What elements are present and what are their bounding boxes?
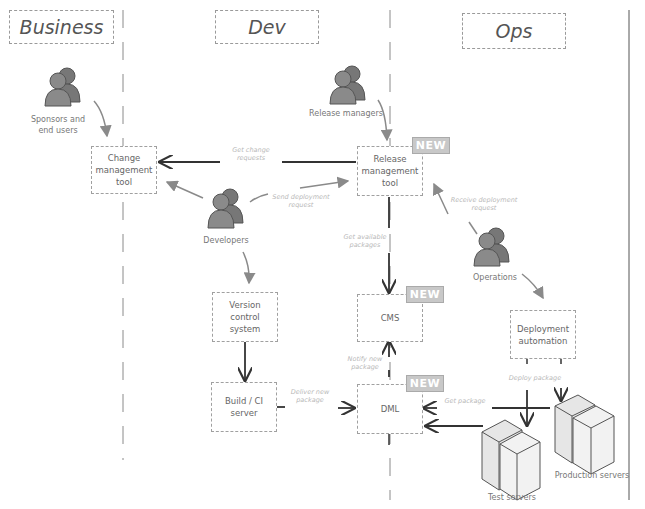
edge-developers-to-release: [250, 194, 268, 202]
node-deployment-automation: Deployment automation: [510, 310, 576, 359]
edge-developers-to-vcs: [243, 252, 249, 283]
test-servers-icon: [482, 420, 540, 500]
node-version-control-system: Version control system: [212, 292, 278, 342]
devops-diagram: Business Dev Ops Sponsors and end users …: [0, 0, 645, 509]
edge-label-deliver-new-package: Deliver new package: [286, 388, 334, 404]
actor-label-release-managers: Release managers: [306, 108, 386, 119]
sponsors-actor-icon: [45, 68, 80, 106]
edge-release-managers-to-release: [378, 100, 387, 140]
actor-label-sponsors: Sponsors and end users: [28, 114, 88, 136]
label-test-servers: Test servers: [482, 492, 542, 503]
actor-label-developers: Developers: [196, 235, 256, 246]
edge-label-get-change-requests: Get change requests: [222, 146, 280, 162]
edge-developers-to-change: [167, 182, 203, 198]
new-badge-dml: NEW: [406, 375, 444, 392]
edge-label-send-deployment-request: Send deployment request: [268, 193, 334, 209]
release-managers-actor-icon: [330, 66, 365, 104]
connectors-layer: [0, 0, 645, 509]
new-badge-release-management: NEW: [412, 137, 450, 154]
edge-sponsors-to-change: [94, 101, 107, 136]
node-build-ci-server: Build / CI server: [211, 382, 277, 432]
label-production-servers: Production servers: [552, 470, 632, 481]
node-change-management-tool: Change management tool: [91, 146, 157, 194]
edge-operations-to-deploy: [522, 274, 543, 298]
edge-label-deploy-package: Deploy package: [505, 374, 565, 382]
operations-actor-icon: [474, 228, 509, 266]
production-servers-icon: [555, 395, 614, 474]
lane-header-dev: Dev: [215, 10, 319, 44]
actor-label-operations: Operations: [465, 272, 525, 283]
lane-header-business: Business: [9, 10, 114, 44]
edge-label-get-available-packages: Get available packages: [340, 233, 390, 249]
developers-actor-icon: [208, 189, 243, 228]
new-badge-cms: NEW: [406, 286, 444, 303]
edge-label-notify-new-package: Notify new package: [344, 355, 386, 371]
edge-deliver-new-package: [276, 407, 354, 408]
edge-get-package: [424, 408, 550, 426]
lane-header-ops: Ops: [462, 13, 566, 49]
edge-label-get-package: Get package: [440, 397, 490, 405]
edge-label-receive-deployment-request: Receive deployment request: [444, 196, 524, 212]
